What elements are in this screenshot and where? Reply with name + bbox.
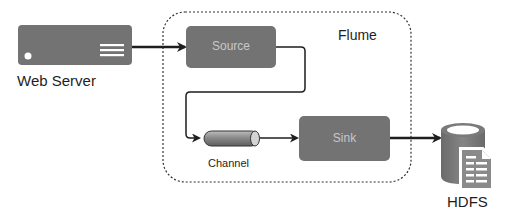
web-server-label: Web Server <box>17 72 96 89</box>
channel-label: Channel <box>208 157 249 169</box>
flume-container-label: Flume <box>338 27 377 43</box>
source-label: Source <box>186 39 276 53</box>
server-icon <box>18 25 132 65</box>
sink-label: Sink <box>299 131 390 145</box>
hdfs-label: HDFS <box>447 193 488 210</box>
database-document-icon <box>441 123 493 190</box>
pipe-cylinder-icon <box>204 131 260 146</box>
diagram-canvas <box>0 0 515 218</box>
